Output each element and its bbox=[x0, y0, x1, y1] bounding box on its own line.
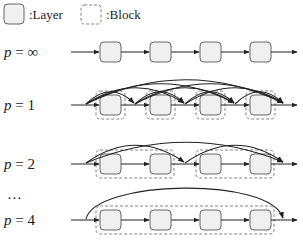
legend-block-label: :Block bbox=[106, 7, 141, 22]
layer-4 bbox=[250, 42, 271, 62]
diagram-canvas: :Layer :Block p = ∞ p = 1 p = 2 … p = 4 bbox=[0, 0, 303, 246]
layer-3 bbox=[200, 95, 221, 115]
legend: :Layer :Block bbox=[4, 4, 141, 24]
ellipsis-label: … bbox=[8, 186, 21, 202]
layer-1 bbox=[100, 42, 121, 62]
row-label-p-inf: p = ∞ bbox=[3, 44, 38, 60]
row-label-p-1: p = 1 bbox=[3, 97, 35, 113]
layer-1 bbox=[100, 95, 121, 115]
layer-3 bbox=[200, 210, 221, 230]
layer-3 bbox=[200, 154, 221, 174]
row-label-p-4: p = 4 bbox=[3, 212, 35, 228]
layer-4 bbox=[250, 154, 271, 174]
row-p-2 bbox=[71, 142, 297, 178]
row-p-4 bbox=[71, 188, 297, 234]
layer-2 bbox=[150, 95, 171, 115]
layer-4 bbox=[250, 210, 271, 230]
legend-layer-icon bbox=[4, 4, 24, 24]
layer-2 bbox=[150, 154, 171, 174]
legend-block-icon bbox=[81, 5, 101, 24]
layer-2 bbox=[150, 42, 171, 62]
layer-3 bbox=[200, 42, 221, 62]
layer-2 bbox=[150, 210, 171, 230]
layer-1 bbox=[100, 210, 121, 230]
row-label-p-2: p = 2 bbox=[3, 156, 35, 172]
legend-layer-label: :Layer bbox=[29, 7, 64, 22]
layer-4 bbox=[250, 95, 271, 115]
row-p-1 bbox=[71, 80, 297, 119]
row-p-inf bbox=[71, 42, 297, 62]
